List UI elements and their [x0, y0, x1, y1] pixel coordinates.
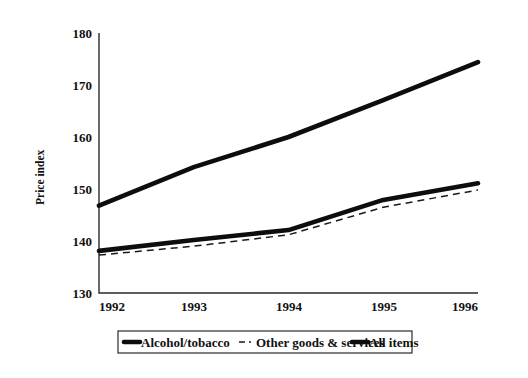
x-tick-label-1992: 1992	[99, 299, 125, 314]
legend-label-all-items: All items	[369, 335, 418, 350]
y-tick-label-180: 180	[73, 26, 93, 41]
x-tick-label-1994: 1994	[276, 299, 303, 314]
y-tick-label-150: 150	[73, 182, 93, 197]
x-tick-label-1993: 1993	[181, 299, 208, 314]
x-tick-label-1995: 1995	[371, 299, 398, 314]
y-tick-label-130: 130	[73, 286, 93, 301]
y-axis-title: Price index	[34, 150, 46, 205]
y-tick-label-160: 160	[73, 130, 93, 145]
x-tick-label-1996: 1996	[452, 299, 479, 314]
legend-label-alcohol-tobacco: Alcohol/tobacco	[141, 335, 230, 350]
axis-lines	[99, 33, 478, 293]
series-line-alcohol-tobacco	[99, 183, 478, 251]
series-line-all-items	[99, 62, 478, 206]
chart-legend: Alcohol/tobacco Other goods & services A…	[118, 331, 418, 353]
y-tick-label-170: 170	[73, 78, 93, 93]
price-index-line-chart: 180 170 160 150 140 130 Price index 1992…	[0, 0, 528, 378]
y-tick-label-140: 140	[73, 234, 93, 249]
chart-plot-area: 180 170 160 150 140 130 Price index 1992…	[0, 0, 528, 378]
